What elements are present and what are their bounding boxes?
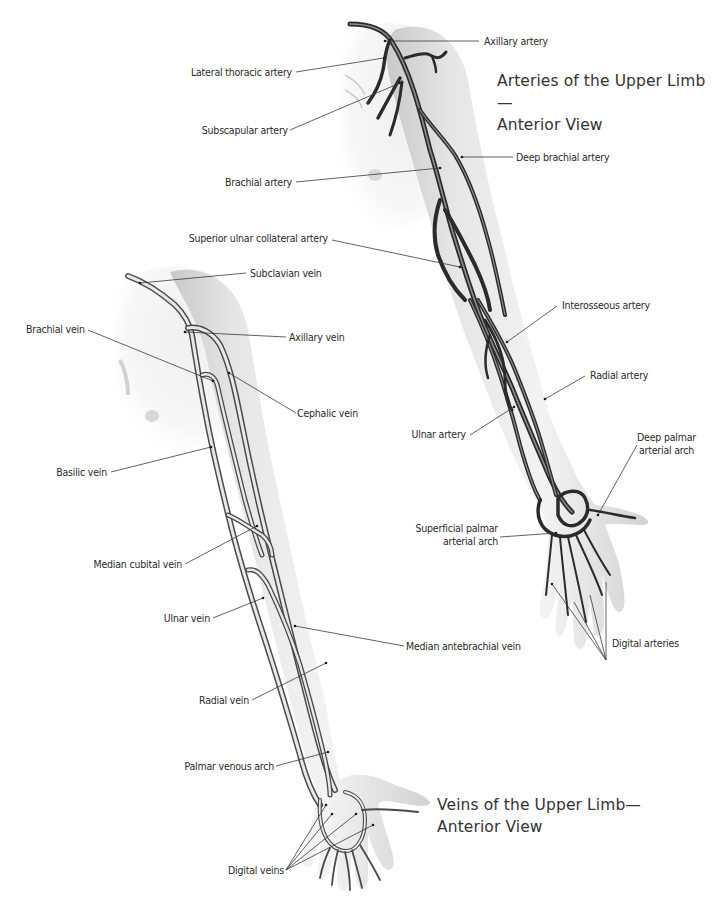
label-digital-veins: Digital veins <box>228 864 284 877</box>
label-median-cubital-vein: Median cubital vein <box>93 558 182 571</box>
arteries-title-line1: Arteries of the Upper Limb— <box>497 70 716 114</box>
superficial-palmar-line2: arterial arch <box>415 535 498 548</box>
label-deep-palmar-arterial-arch: Deep palmar arterial arch <box>637 431 696 457</box>
deep-palmar-line2: arterial arch <box>637 444 696 457</box>
deep-palmar-line1: Deep palmar <box>637 431 696 444</box>
arteries-title-line2: Anterior View <box>497 114 716 136</box>
label-deep-brachial-artery: Deep brachial artery <box>516 151 609 164</box>
label-interosseous-artery: Interosseous artery <box>562 299 650 312</box>
label-digital-arteries: Digital arteries <box>612 637 679 650</box>
label-ulnar-artery: Ulnar artery <box>412 428 466 441</box>
label-median-antebrachial-vein: Median antebrachial vein <box>406 640 521 653</box>
label-palmar-venous-arch: Palmar venous arch <box>184 760 274 773</box>
label-radial-artery: Radial artery <box>590 369 648 382</box>
label-axillary-vein: Axillary vein <box>289 331 345 344</box>
label-brachial-artery: Brachial artery <box>225 176 292 189</box>
veins-title-line2: Anterior View <box>437 816 641 838</box>
label-superior-ulnar-collateral-artery: Superior ulnar collateral artery <box>189 232 328 245</box>
veins-nipple <box>145 410 159 422</box>
label-subclavian-vein: Subclavian vein <box>250 267 322 280</box>
label-superficial-palmar-arterial-arch: Superficial palmar arterial arch <box>415 522 498 548</box>
veins-arm <box>170 270 430 892</box>
label-brachial-vein: Brachial vein <box>26 323 85 336</box>
label-cephalic-vein: Cephalic vein <box>297 407 358 420</box>
label-subscapular-artery: Subscapular artery <box>202 124 288 137</box>
veins-title: Veins of the Upper Limb— Anterior View <box>437 794 641 838</box>
label-axillary-artery: Axillary artery <box>484 35 548 48</box>
arteries-title: Arteries of the Upper Limb— Anterior Vie… <box>497 70 716 136</box>
label-basilic-vein: Basilic vein <box>56 466 107 479</box>
veins-figure <box>113 267 430 891</box>
superficial-palmar-line1: Superficial palmar <box>415 522 498 535</box>
veins-title-line1: Veins of the Upper Limb— <box>437 794 641 816</box>
label-radial-vein: Radial vein <box>199 694 249 707</box>
label-ulnar-vein: Ulnar vein <box>164 612 210 625</box>
label-lateral-thoracic-artery: Lateral thoracic artery <box>191 66 292 79</box>
